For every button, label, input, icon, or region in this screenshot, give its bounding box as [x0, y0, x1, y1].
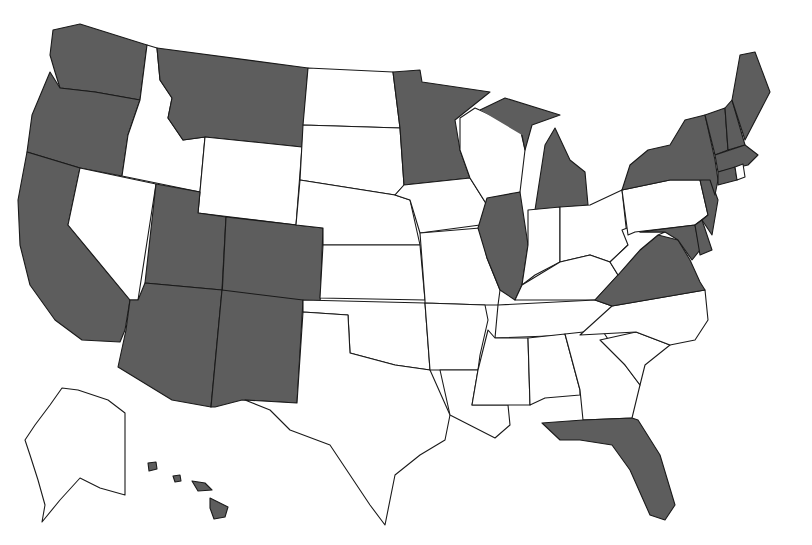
- state-az[interactable]: [118, 283, 222, 407]
- us-states-map: [0, 0, 812, 545]
- state-hi[interactable]: [148, 462, 228, 519]
- state-nm[interactable]: [211, 290, 303, 407]
- state-nd[interactable]: [303, 68, 400, 128]
- state-mt[interactable]: [157, 48, 308, 147]
- state-wy[interactable]: [198, 137, 302, 225]
- state-ar[interactable]: [425, 303, 488, 370]
- state-ri[interactable]: [735, 164, 745, 180]
- state-ak[interactable]: [25, 388, 125, 522]
- state-fl[interactable]: [542, 418, 675, 520]
- state-ks[interactable]: [320, 245, 425, 300]
